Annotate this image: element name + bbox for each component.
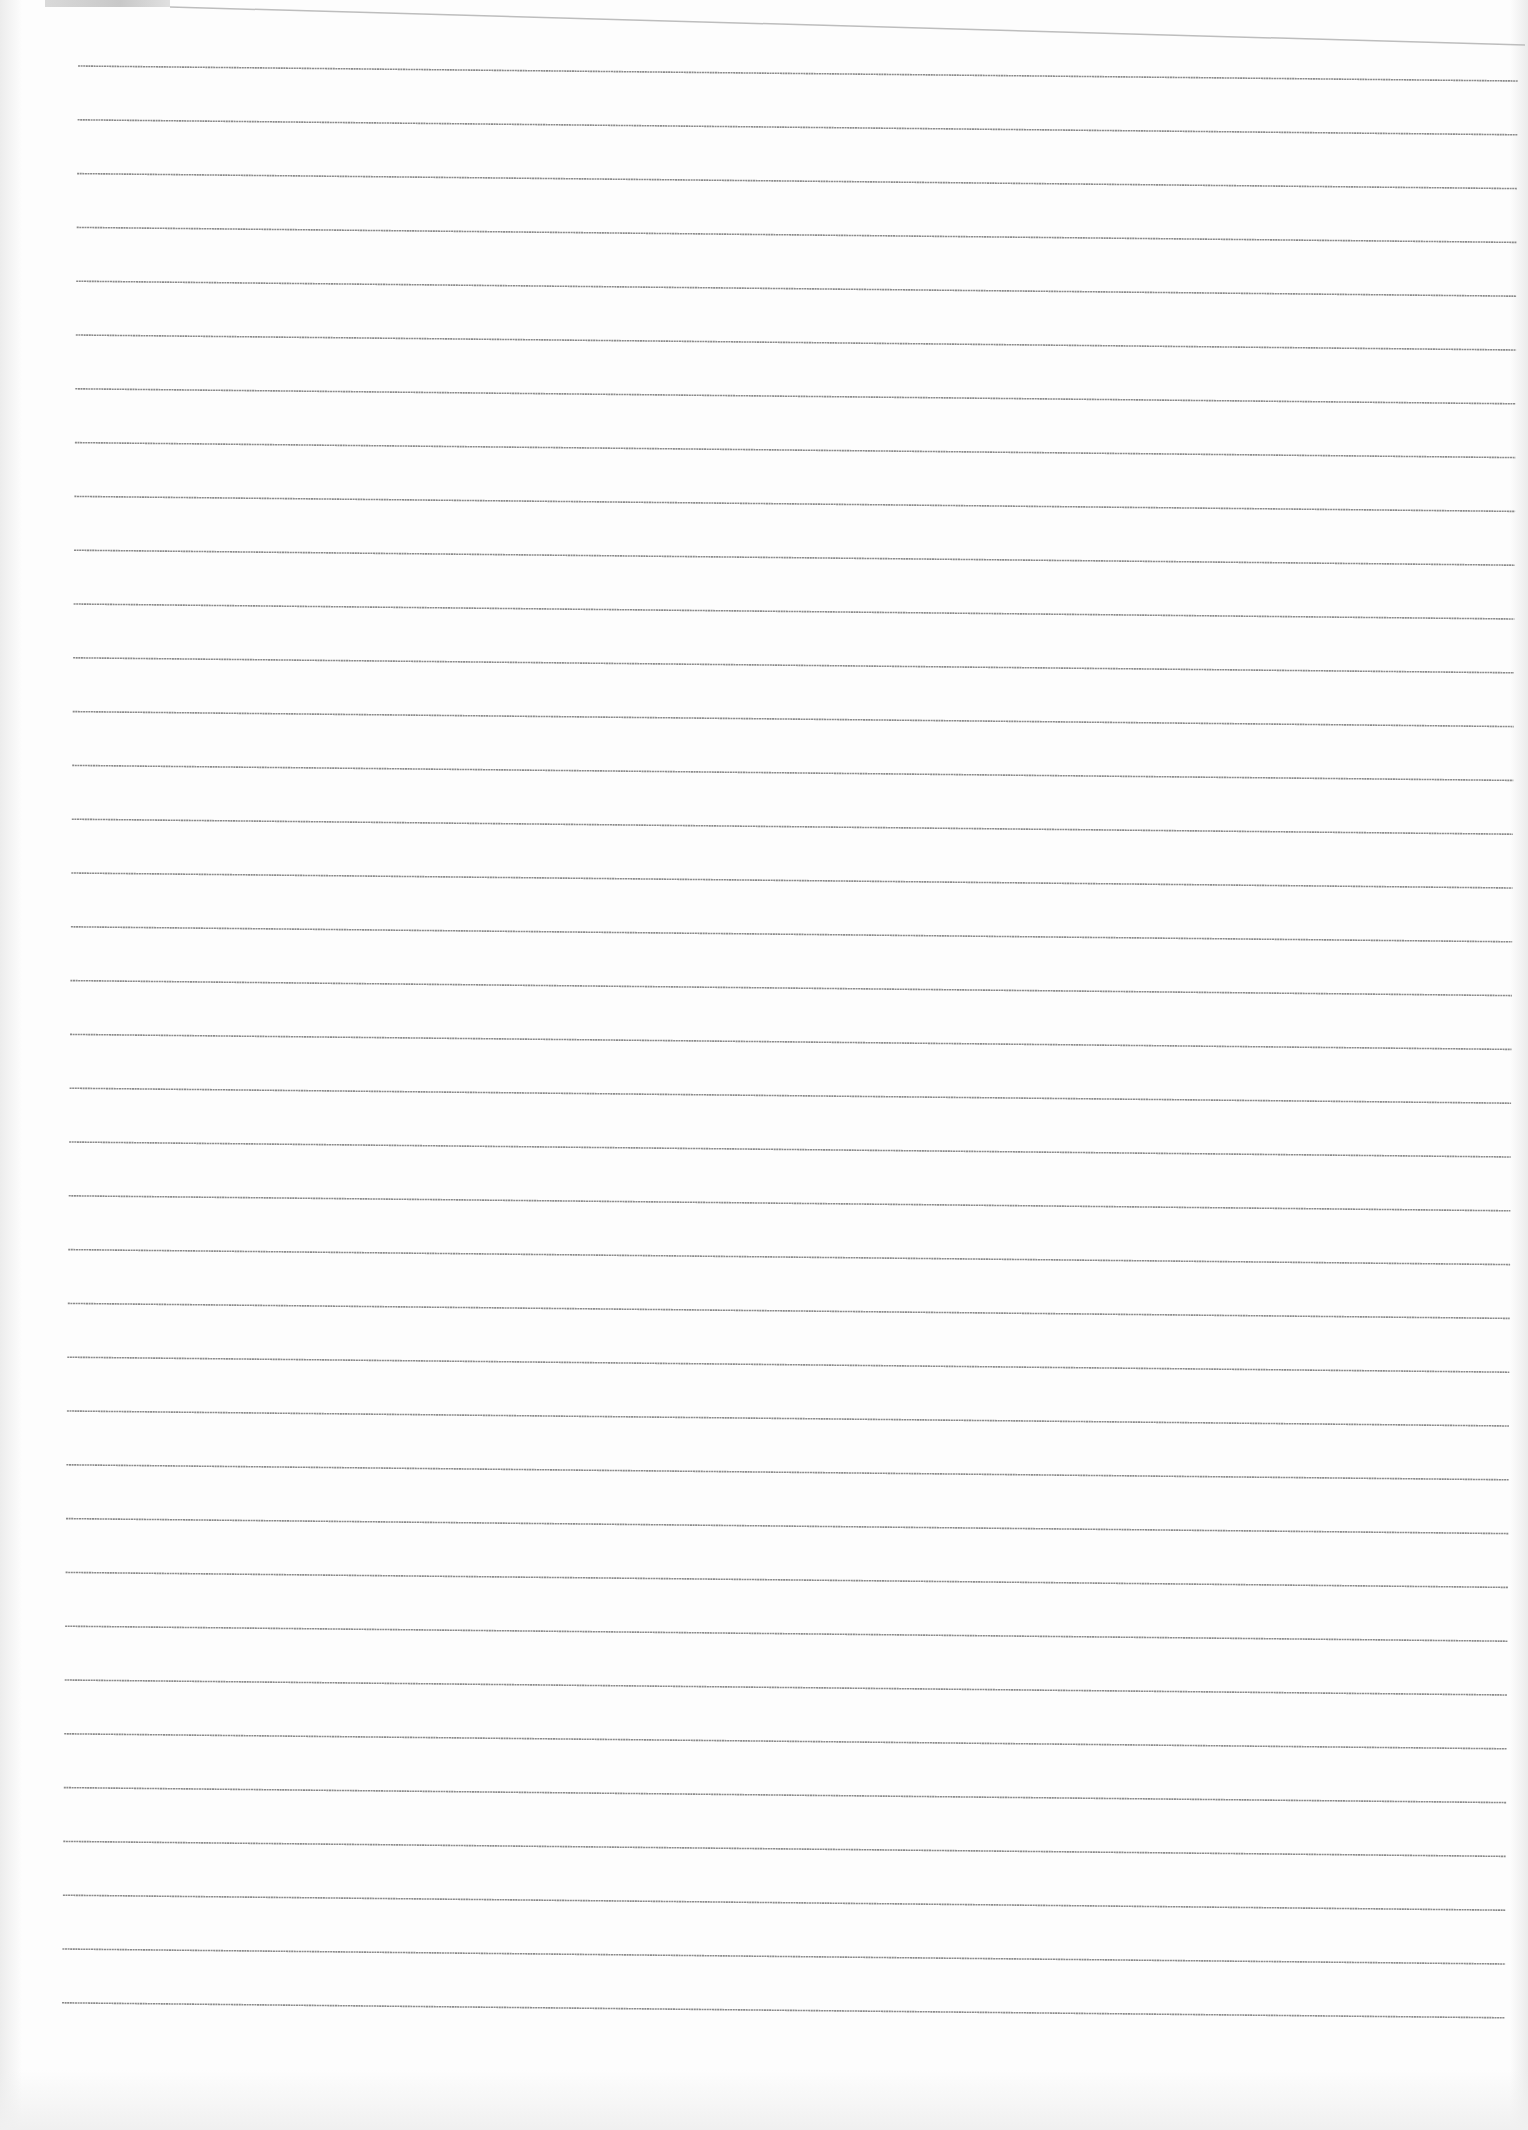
ruled-line [65, 1680, 1508, 1695]
paper-sheet [0, 0, 1528, 2130]
ruled-line [63, 1841, 1506, 1856]
ruled-line [75, 389, 1516, 404]
ruled-line [67, 1357, 1509, 1372]
ruled-line [76, 335, 1516, 350]
ruled-line [68, 1250, 1510, 1265]
ruled-line [72, 819, 1513, 834]
ruled-line [69, 1196, 1511, 1211]
ruled-line [75, 443, 1516, 458]
ruled-line [69, 1142, 1511, 1157]
ruled-line [77, 227, 1517, 242]
ruled-line [74, 550, 1515, 565]
ruled-line [67, 1411, 1509, 1426]
ruled-line [76, 281, 1516, 296]
ruled-line [71, 927, 1512, 942]
ruled-line [62, 2003, 1505, 2018]
ruled-line [73, 658, 1514, 673]
ruled-line [73, 712, 1514, 727]
ruled-line [66, 1465, 1508, 1480]
paper-top-edge [170, 7, 1525, 45]
ruled-lines [0, 0, 1528, 2130]
ruled-line [62, 1949, 1505, 1964]
ruled-line [68, 1303, 1510, 1318]
ruled-line [70, 1088, 1512, 1103]
ruled-line [74, 496, 1515, 511]
ruled-line [71, 873, 1512, 888]
ruled-line [78, 120, 1518, 135]
ruled-line [65, 1626, 1507, 1641]
ruled-line [66, 1519, 1508, 1534]
ruled-line [64, 1734, 1507, 1749]
ruled-line [63, 1895, 1506, 1910]
ruled-line [70, 1034, 1512, 1049]
ruled-line [74, 604, 1515, 619]
ruled-line [70, 981, 1512, 996]
ruled-line [72, 765, 1513, 780]
ruled-line [77, 174, 1517, 189]
ruled-line [78, 66, 1518, 81]
ruled-line [64, 1788, 1507, 1803]
ruled-line [66, 1572, 1508, 1587]
